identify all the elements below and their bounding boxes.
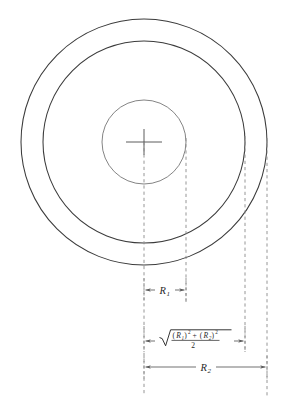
rms-open-paren-1: ( xyxy=(173,331,176,340)
rms-open-paren-2: ( xyxy=(200,331,203,340)
dim-r2-subscript: 2 xyxy=(208,367,212,375)
rms-r-2: R xyxy=(203,331,209,340)
dim-r1-subscript: 1 xyxy=(167,290,171,298)
projection-line-group xyxy=(144,136,267,396)
concentric-circles-diagram: R 1 ( R 1 ) 2 + ( R 2 ) 2 xyxy=(0,0,288,413)
dim-r2-label: R xyxy=(200,362,208,373)
dimension-r2: R 2 xyxy=(144,356,267,380)
dimension-r1: R 1 xyxy=(144,278,186,302)
dim-r1-label: R xyxy=(159,285,167,296)
rms-close-paren-1: ) xyxy=(184,331,187,340)
rms-plus-sign: + xyxy=(193,331,197,340)
rms-denominator: 2 xyxy=(191,341,195,350)
rms-r-1: R xyxy=(175,331,181,340)
rms-exponent-1: 2 xyxy=(188,329,191,335)
dimension-rms: ( R 1 ) 2 + ( R 2 ) 2 2 xyxy=(144,326,245,352)
figure-container: R 1 ( R 1 ) 2 + ( R 2 ) 2 xyxy=(0,0,288,413)
rms-exponent-2: 2 xyxy=(215,329,218,335)
rms-numerator: ( R 1 ) 2 + ( R 2 ) 2 xyxy=(173,329,219,341)
rms-close-paren-2: ) xyxy=(212,331,215,340)
